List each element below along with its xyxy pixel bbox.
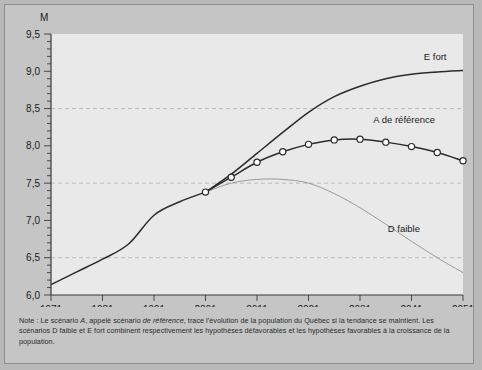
data-point-marker: [228, 174, 234, 180]
data-point-marker: [254, 159, 260, 165]
y-axis-tick-label: 9,5: [26, 29, 40, 40]
series-label-d-faible: D faible: [388, 223, 420, 234]
y-axis-tick-label: 6,0: [26, 290, 40, 301]
note-de-reference: de référence: [143, 316, 184, 325]
y-axis-tick-label: 9,0: [26, 66, 40, 77]
population-projection-chart: 6,06,57,07,58,08,59,09,51971198119912001…: [5, 5, 475, 307]
note-text: Note : Le scénario A, appelé scénario de…: [19, 316, 461, 347]
y-axis-tick-label: 6,5: [26, 252, 40, 263]
y-axis-tick-label: 7,5: [26, 178, 40, 189]
data-point-marker: [305, 141, 311, 147]
data-point-marker: [408, 144, 414, 150]
chart-area: M 6,06,57,07,58,08,59,09,519711981199120…: [5, 5, 475, 307]
data-point-marker: [434, 149, 440, 155]
note-prefix: Note : Le scénario: [19, 316, 80, 325]
figure-note: Note : Le scénario A, appelé scénario de…: [5, 307, 475, 364]
series-label-a-reference: A de référence: [373, 114, 435, 125]
series-label-e-fort: E fort: [424, 51, 447, 62]
y-axis-tick-label: 8,5: [26, 103, 40, 114]
note-mid-1: , appelé scénario: [85, 316, 143, 325]
data-point-marker: [383, 139, 389, 145]
y-axis-tick-label: 7,0: [26, 215, 40, 226]
y-axis-tick-label: 8,0: [26, 140, 40, 151]
data-point-marker: [202, 189, 208, 195]
data-point-marker: [357, 136, 363, 142]
figure-frame: M 6,06,57,07,58,08,59,09,519711981199120…: [4, 4, 474, 364]
data-point-marker: [280, 149, 286, 155]
data-point-marker: [331, 137, 337, 143]
data-point-marker: [460, 158, 466, 164]
